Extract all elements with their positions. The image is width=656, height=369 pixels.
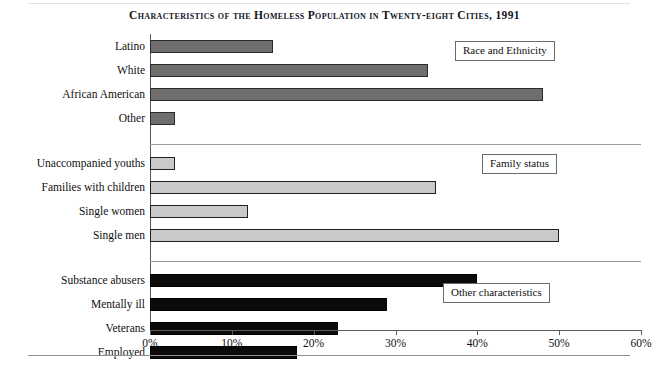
bar (150, 298, 387, 311)
x-axis-tick (232, 330, 233, 335)
category-label-column: LatinoWhiteAfrican AmericanOtherUnaccomp… (0, 34, 150, 330)
category-label: African American (4, 88, 150, 101)
bar (150, 157, 175, 170)
bar (150, 205, 248, 218)
bar (150, 274, 477, 287)
legend-family-status: Family status (482, 154, 557, 174)
legend-other-characteristics: Other characteristics (443, 283, 550, 303)
x-axis-tick-label: 0% (125, 337, 175, 349)
chart-title: Characteristics of the Homeless Populati… (0, 9, 649, 21)
legend-race-and-ethnicity: Race and Ethnicity (455, 41, 555, 61)
category-label: Latino (4, 40, 150, 53)
x-axis-tick (314, 330, 315, 335)
category-label: Single men (4, 229, 150, 242)
bar (150, 64, 428, 77)
category-label: Other (4, 112, 150, 125)
bar (150, 229, 559, 242)
plot-area (150, 34, 641, 330)
category-label: Unaccompanied youths (4, 157, 150, 170)
category-label: Single women (4, 205, 150, 218)
bottom-rule (28, 355, 630, 356)
top-rule (28, 3, 630, 4)
x-axis-tick-label: 30% (371, 337, 421, 349)
x-axis-tick-label: 50% (534, 337, 584, 349)
x-axis-tick (559, 330, 560, 335)
category-label: White (4, 64, 150, 77)
x-axis-tick (150, 330, 151, 335)
category-label: Families with children (4, 181, 150, 194)
category-label: Mentally ill (4, 298, 150, 311)
x-axis-tick (641, 330, 642, 335)
x-axis-tick-label: 20% (289, 337, 339, 349)
x-axis: 0%10%20%30%40%50%60% (150, 330, 641, 362)
x-axis-tick (477, 330, 478, 335)
category-label: Substance abusers (4, 274, 150, 287)
x-axis-tick-label: 60% (616, 337, 656, 349)
bar (150, 181, 436, 194)
x-axis-tick-label: 10% (207, 337, 257, 349)
bar (150, 40, 273, 53)
bar (150, 112, 175, 125)
group-separator (150, 144, 641, 145)
x-axis-tick-label: 40% (452, 337, 502, 349)
group-separator (150, 261, 641, 262)
category-label: Veterans (4, 322, 150, 335)
x-axis-tick (396, 330, 397, 335)
bar (150, 88, 543, 101)
